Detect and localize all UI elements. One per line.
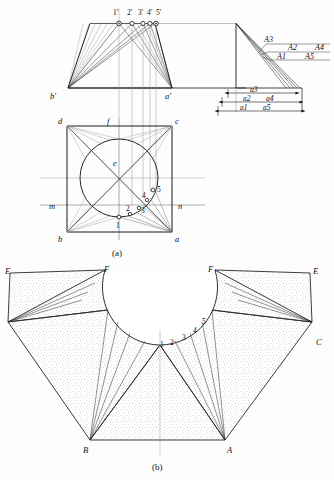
development-arc-label-3: 3 [182,333,186,342]
development-label-B: B [83,445,88,455]
plan-point-label-4: 4 [142,191,146,200]
tl-dim-label-a4: a4 [266,94,274,103]
front-point-label-3p: 3' [138,8,144,17]
development-arc-label-4: 4 [193,326,197,335]
plan-mid-label-f: f [107,116,111,126]
plan-corner-label-b: b [58,234,62,244]
development-label-E-left: E [4,266,11,276]
tl-dim-label-a2: a2 [243,94,251,103]
plan-fan-corner-d [67,126,119,160]
plan-mid-label-m: m [49,201,55,211]
front-point-label-2p: 2' [127,8,133,17]
plan-circle-point-markers [117,188,155,219]
development-arc-label-2: 2 [170,338,174,347]
development-arc-label-5: 5 [202,317,206,326]
drawing-sheet: 1' 2' 3' 4' 5' b' a' [0,0,334,480]
tl-hypotenuse-fan [236,24,300,89]
development-label-C: C [316,337,322,347]
plan-point-label-5: 5 [157,185,161,194]
plan-mid-label-e: e [113,158,117,168]
tl-label-A5: A5 [304,52,314,61]
tl-dim-label-a1: a1 [240,103,248,112]
plan-fan-corner-b [67,196,119,232]
plan-point-label-3: 3 [141,206,145,215]
front-corner-label-b-prime: b' [50,91,56,101]
tl-dim-label-a3: a3 [250,85,258,94]
tl-dimension-a1-a5 [218,106,302,116]
front-corner-label-a-prime: a' [165,91,171,101]
tl-dimension-a2-a4 [222,97,300,107]
tl-label-A4: A4 [314,43,324,52]
tl-dim-label-a5: a5 [263,103,271,112]
plan-mid-label-n: n [178,201,182,211]
front-point-label-5p: 5' [156,8,162,17]
development-arc-label-1: 1 [160,340,164,349]
development-group [8,270,312,455]
front-point-label-1p: 1' [113,8,119,17]
development-label-F-left: F [103,264,110,274]
plan-corner-label-a: a [175,234,179,244]
plan-fan-corner-c [119,126,172,160]
development-label-E-right: E [312,266,319,276]
development-label-F-right: F [207,264,214,274]
true-length-diagram-group [218,24,330,117]
front-view-construction-rays-right [126,24,172,89]
plan-corner-label-d: d [58,116,63,126]
development-label-A: A [226,445,233,455]
engineering-drawing-canvas: 1' 2' 3' 4' 5' b' a' [0,0,334,480]
tl-label-A3: A3 [263,35,273,44]
plan-point-label-1: 1 [116,221,120,230]
front-view-outline [68,24,172,89]
plan-point-label-2: 2 [126,204,130,213]
front-view-element-lines-right [119,24,172,89]
caption-b: (b) [152,462,163,472]
plan-view-group [40,118,205,240]
tl-label-A2: A2 [287,43,297,52]
caption-a: (a) [112,248,122,258]
tl-label-A1: A1 [276,52,286,61]
front-point-label-4p: 4' [147,8,153,17]
tl-dimension-a3 [228,89,296,98]
plan-corner-label-c: c [175,116,179,126]
